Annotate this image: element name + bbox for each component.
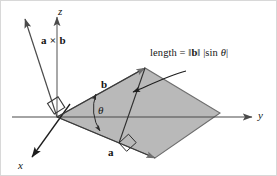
diagram-canvas	[0, 0, 277, 176]
z-axis-label: z	[58, 6, 62, 17]
x-axis-label: x	[18, 160, 23, 171]
length-prefix: length =	[150, 47, 188, 58]
figure-container: z y x a × b b a θ length = ‖b‖ |sin θ|	[0, 0, 277, 176]
vector-b-label: b	[101, 79, 107, 90]
theta-label: θ	[98, 105, 103, 116]
sin-text: sin	[205, 47, 220, 58]
abs-close-bar: |	[226, 47, 228, 58]
norm-close-bar: ‖	[197, 47, 200, 58]
length-annotation: length = ‖b‖ |sin θ|	[150, 48, 228, 59]
x-axis	[32, 104, 70, 157]
vector-a-label: a	[108, 147, 114, 158]
y-axis-label: y	[258, 110, 263, 121]
cross-product-label: a × b	[41, 35, 66, 46]
parallelogram-area	[57, 68, 220, 158]
right-angle-mark-origin	[48, 97, 65, 114]
